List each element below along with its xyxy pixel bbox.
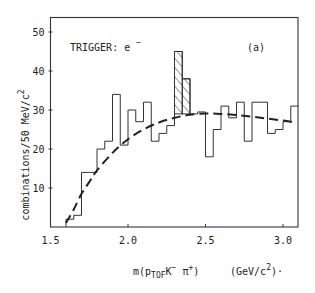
x-tick-label: 2.5: [196, 235, 214, 246]
x-tick-label: 3.0: [274, 235, 292, 246]
trigger-annotation: TRIGGER: e −: [70, 38, 141, 53]
y-tick-label: 30: [32, 105, 44, 116]
y-tick-label: 50: [32, 27, 44, 38]
x-tick-label: 2.0: [119, 235, 137, 246]
y-axis-ticks: 1020304050: [32, 27, 52, 194]
y-axis-label: combinations/50 MeV/c2: [17, 89, 31, 220]
panel-label: (a): [247, 42, 265, 53]
background-fit-curve: [66, 113, 295, 223]
x-axis-unit: (GeV/c2)·: [230, 263, 283, 277]
histogram-chart: 1020304050 1.52.02.53.0 TRIGGER: e − (a)…: [0, 0, 315, 293]
histogram-steps: [66, 52, 299, 228]
x-axis-label: m(pTOFK− π+): [133, 263, 199, 280]
hatched-bin: [182, 79, 190, 114]
y-tick-label: 10: [32, 183, 44, 194]
y-tick-label: 40: [32, 66, 44, 77]
x-tick-label: 1.5: [41, 235, 59, 246]
y-tick-label: 20: [32, 144, 44, 155]
hatched-bin: [175, 52, 183, 114]
